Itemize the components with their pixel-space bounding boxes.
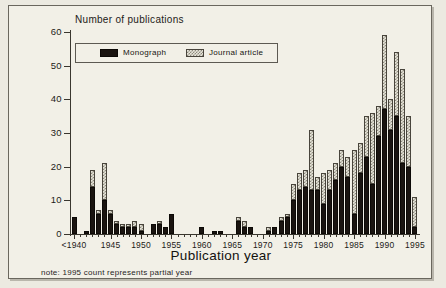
chart-legend: Monograph Journal article xyxy=(75,43,278,63)
bar-segment-monograph xyxy=(96,214,101,234)
y-tick-label-50: 50 xyxy=(38,61,62,70)
bar-segment-monograph xyxy=(126,227,131,234)
x-minor-tick xyxy=(281,234,282,237)
bar-segment-monograph xyxy=(358,173,363,234)
x-minor-tick xyxy=(98,234,99,237)
bar-segment-monograph xyxy=(120,227,125,234)
bar-segment-journal xyxy=(333,163,338,180)
bar-segment-journal xyxy=(339,150,344,167)
bar-1992 xyxy=(394,52,399,234)
x-minor-tick xyxy=(318,234,319,237)
bar-1976 xyxy=(297,173,302,234)
bar-segment-monograph xyxy=(132,227,137,234)
bar-segment-monograph xyxy=(272,227,277,234)
bar-segment-monograph xyxy=(370,184,375,235)
bar-segment-journal xyxy=(309,130,314,191)
x-minor-tick xyxy=(129,234,130,237)
bar-segment-monograph xyxy=(242,227,247,234)
bar-1989 xyxy=(376,106,381,234)
bar-segment-journal xyxy=(321,173,326,203)
monograph-swatch-icon xyxy=(100,49,118,57)
bar-1995 xyxy=(412,197,417,234)
y-tick-label-10: 10 xyxy=(38,195,62,204)
y-tick-10 xyxy=(64,200,71,201)
bar-1982 xyxy=(333,163,338,234)
x-minor-tick xyxy=(366,234,367,237)
bar-1979 xyxy=(315,177,320,234)
x-tick-1970 xyxy=(263,234,264,239)
y-tick-label-30: 30 xyxy=(38,128,62,137)
x-minor-tick xyxy=(159,234,160,237)
bar-1966 xyxy=(236,217,241,234)
bar-1960 xyxy=(199,227,204,234)
x-axis-title: Publication year xyxy=(9,248,433,263)
y-tick-20 xyxy=(64,167,71,168)
bar-segment-monograph xyxy=(339,167,344,234)
bar-segment-journal xyxy=(102,163,107,200)
x-minor-tick xyxy=(147,234,148,237)
bar-1952 xyxy=(151,224,156,234)
x-minor-tick xyxy=(299,234,300,237)
x-tick-label-1995: 1995 xyxy=(395,240,435,250)
chart-note: note: 1995 count represents partial year xyxy=(41,268,192,277)
bar-segment-monograph xyxy=(388,130,393,234)
bar-1980 xyxy=(321,173,326,234)
x-tick-1965 xyxy=(232,234,233,239)
legend-label-monograph: Monograph xyxy=(123,48,166,57)
x-minor-tick xyxy=(196,234,197,237)
bar-segment-journal xyxy=(370,113,375,184)
bar-segment-monograph xyxy=(382,109,387,234)
bar-segment-journal xyxy=(400,69,405,163)
x-minor-tick xyxy=(92,234,93,237)
x-minor-tick xyxy=(135,234,136,237)
bar-segment-monograph xyxy=(151,224,156,234)
x-tick-1950 xyxy=(141,234,142,239)
bar-1986 xyxy=(358,143,363,234)
x-minor-tick xyxy=(330,234,331,237)
y-tick-label-0: 0 xyxy=(38,229,62,238)
bar-1950 xyxy=(139,224,144,234)
x-tick-1975 xyxy=(293,234,294,239)
x-minor-tick xyxy=(86,234,87,237)
bar-1984 xyxy=(345,157,350,234)
x-minor-tick xyxy=(391,234,392,237)
bar-segment-monograph xyxy=(364,157,369,234)
bar-1987 xyxy=(364,116,369,234)
bar-segment-journal xyxy=(139,224,144,231)
bar-segment-monograph xyxy=(321,204,326,234)
bar-segment-journal xyxy=(406,116,411,167)
bar-segment-monograph xyxy=(406,167,411,234)
x-minor-tick xyxy=(257,234,258,237)
x-minor-tick xyxy=(311,234,312,237)
x-minor-tick xyxy=(403,234,404,237)
x-minor-tick xyxy=(190,234,191,237)
bar-1985 xyxy=(352,150,357,234)
bar-segment-journal xyxy=(388,99,393,129)
bar-1993 xyxy=(400,69,405,234)
x-minor-tick xyxy=(245,234,246,237)
bar-segment-monograph xyxy=(157,224,162,234)
x-tick-<1940 xyxy=(74,234,75,239)
bar-1991 xyxy=(388,99,393,234)
bar-segment-monograph xyxy=(297,190,302,234)
bar-1953 xyxy=(157,221,162,234)
bar-segment-journal xyxy=(345,157,350,177)
y-tick-40 xyxy=(64,99,71,100)
bar-segment-monograph xyxy=(285,217,290,234)
x-tick-1985 xyxy=(354,234,355,239)
x-tick-1990 xyxy=(385,234,386,239)
bar-segment-monograph xyxy=(72,217,77,234)
x-minor-tick xyxy=(378,234,379,237)
bar-segment-monograph xyxy=(400,163,405,234)
bar-segment-monograph xyxy=(394,116,399,234)
x-minor-tick xyxy=(336,234,337,237)
x-minor-tick xyxy=(342,234,343,237)
bar-1978 xyxy=(309,130,314,234)
x-minor-tick xyxy=(123,234,124,237)
bar-segment-monograph xyxy=(291,200,296,234)
bar-1977 xyxy=(303,170,308,234)
journal-swatch-icon xyxy=(186,49,204,57)
x-minor-tick xyxy=(372,234,373,237)
y-tick-label-20: 20 xyxy=(38,162,62,171)
bar-segment-journal xyxy=(394,52,399,116)
